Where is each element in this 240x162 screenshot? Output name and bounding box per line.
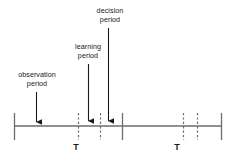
tick-label-T-left: T — [70, 142, 82, 152]
timeline-axis-graphic — [0, 0, 240, 162]
tick-label-T-right: T — [171, 142, 183, 152]
timeline-diagram: observation period learning period decis… — [0, 0, 240, 162]
